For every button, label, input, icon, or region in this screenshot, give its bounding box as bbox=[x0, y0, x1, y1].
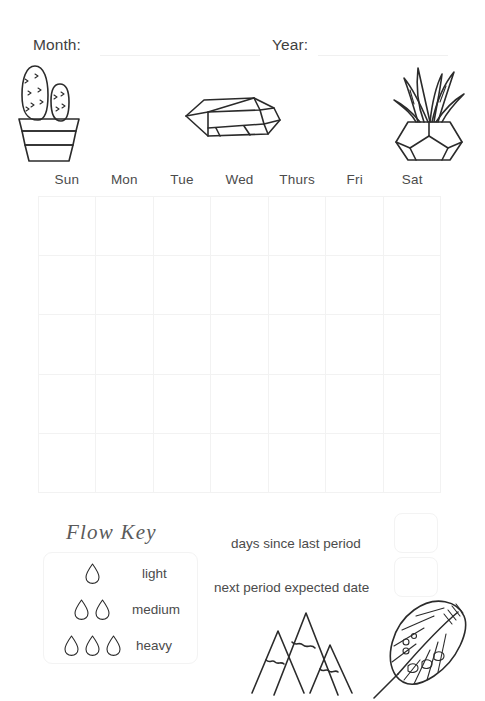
weekday-sun: Sun bbox=[38, 172, 96, 187]
calendar-cell[interactable] bbox=[96, 375, 153, 434]
period-tracker-page: Month: Year: bbox=[0, 0, 485, 701]
calendar-cell[interactable] bbox=[384, 315, 441, 374]
cactus-icon bbox=[8, 57, 90, 165]
weekday-mon: Mon bbox=[96, 172, 154, 187]
days-since-last-period-input[interactable] bbox=[394, 513, 438, 553]
potted-plant-icon bbox=[388, 56, 470, 168]
weekday-thurs: Thurs bbox=[268, 172, 326, 187]
calendar-cell[interactable] bbox=[211, 375, 268, 434]
water-drop-icon bbox=[84, 634, 101, 657]
calendar-cell[interactable] bbox=[326, 256, 383, 315]
weekday-wed: Wed bbox=[211, 172, 269, 187]
mountains-icon bbox=[248, 607, 360, 697]
calendar-cell[interactable] bbox=[211, 256, 268, 315]
month-field-label: Month: bbox=[33, 36, 81, 54]
calendar-cell[interactable] bbox=[96, 256, 153, 315]
calendar-cell[interactable] bbox=[384, 256, 441, 315]
calendar-cell[interactable] bbox=[154, 256, 211, 315]
flow-drops-heavy bbox=[44, 634, 136, 657]
next-period-expected-date-input[interactable] bbox=[394, 557, 438, 597]
calendar-cell[interactable] bbox=[39, 434, 96, 493]
water-drop-icon bbox=[94, 598, 111, 621]
flow-drops-medium bbox=[44, 598, 136, 621]
calendar-cell[interactable] bbox=[326, 315, 383, 374]
calendar-cell[interactable] bbox=[211, 197, 268, 256]
water-drop-icon bbox=[105, 634, 122, 657]
calendar-cell[interactable] bbox=[211, 315, 268, 374]
calendar-cell[interactable] bbox=[154, 315, 211, 374]
calendar-cell[interactable] bbox=[211, 434, 268, 493]
month-write-in-line[interactable] bbox=[100, 55, 260, 56]
flow-key-box: light medium bbox=[43, 552, 198, 664]
calendar-cell[interactable] bbox=[269, 197, 326, 256]
flow-key-label-light: light bbox=[142, 566, 167, 581]
flow-key-row-heavy: heavy bbox=[44, 627, 197, 664]
weekday-fri: Fri bbox=[326, 172, 384, 187]
calendar-cell[interactable] bbox=[326, 375, 383, 434]
flow-key-label-heavy: heavy bbox=[136, 638, 172, 653]
calendar-cell[interactable] bbox=[269, 256, 326, 315]
next-period-expected-date-label: next period expected date bbox=[214, 580, 369, 595]
calendar-cell[interactable] bbox=[154, 197, 211, 256]
flow-key-row-medium: medium bbox=[44, 591, 197, 628]
calendar-cell[interactable] bbox=[384, 375, 441, 434]
water-drop-icon bbox=[84, 562, 101, 585]
calendar-cell[interactable] bbox=[96, 315, 153, 374]
crystal-gem-icon bbox=[168, 88, 288, 144]
calendar-cell[interactable] bbox=[39, 256, 96, 315]
calendar-cell[interactable] bbox=[39, 197, 96, 256]
calendar-cell[interactable] bbox=[269, 434, 326, 493]
weekday-sat: Sat bbox=[383, 172, 441, 187]
calendar-cell[interactable] bbox=[154, 434, 211, 493]
days-since-last-period-label: days since last period bbox=[231, 536, 361, 551]
calendar-cell[interactable] bbox=[39, 375, 96, 434]
calendar-cell[interactable] bbox=[269, 315, 326, 374]
calendar-cell[interactable] bbox=[154, 375, 211, 434]
calendar-cell[interactable] bbox=[384, 197, 441, 256]
flow-drops-light bbox=[44, 562, 136, 585]
weekday-tue: Tue bbox=[153, 172, 211, 187]
calendar-cell[interactable] bbox=[326, 434, 383, 493]
year-field-label: Year: bbox=[272, 36, 308, 54]
feather-icon bbox=[372, 592, 478, 700]
calendar-cell[interactable] bbox=[96, 434, 153, 493]
water-drop-icon bbox=[63, 634, 80, 657]
weekday-header-row: Sun Mon Tue Wed Thurs Fri Sat bbox=[38, 172, 441, 187]
calendar-cell[interactable] bbox=[96, 197, 153, 256]
calendar-cell[interactable] bbox=[384, 434, 441, 493]
calendar-cell[interactable] bbox=[326, 197, 383, 256]
flow-key-label-medium: medium bbox=[132, 602, 180, 617]
water-drop-icon bbox=[73, 598, 90, 621]
flow-key-row-light: light bbox=[44, 555, 197, 592]
flow-key-title: Flow Key bbox=[66, 520, 157, 545]
calendar-cell[interactable] bbox=[39, 315, 96, 374]
calendar-grid bbox=[38, 196, 441, 493]
calendar-cell[interactable] bbox=[269, 375, 326, 434]
